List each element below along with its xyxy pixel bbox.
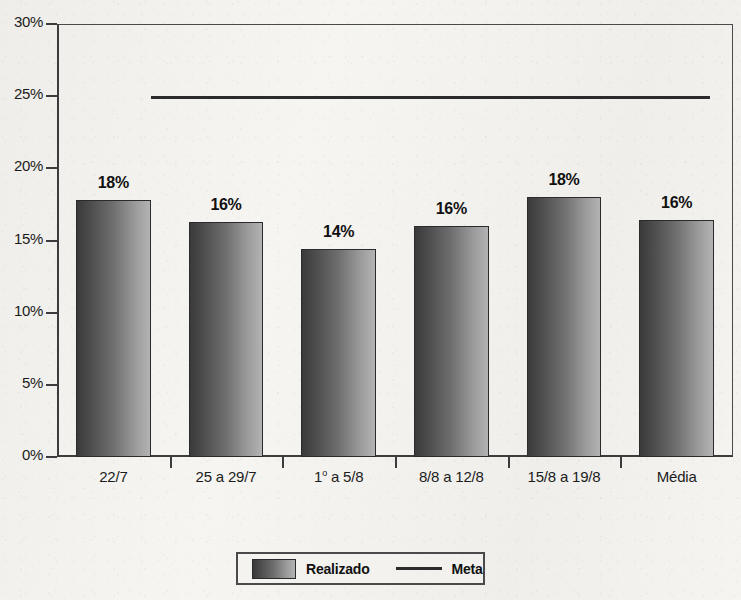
x-tick-mark xyxy=(395,457,397,468)
bar-1º a 5/8 xyxy=(301,249,375,457)
x-axis-label: 25 a 29/7 xyxy=(170,468,283,485)
y-tick-label: 25% xyxy=(14,85,43,102)
bar-value-label: 16% xyxy=(170,196,283,214)
y-tick-label: 0% xyxy=(22,446,43,463)
chart-page: 0%5%10%15%20%25%30% 18%22/716%25 a 29/71… xyxy=(0,0,741,600)
legend-item-realizado: Realizado xyxy=(238,559,370,579)
bar-value-label: 18% xyxy=(57,174,170,192)
y-tick-label: 20% xyxy=(14,157,43,174)
meta-target-line xyxy=(151,96,711,99)
y-tick-mark xyxy=(46,23,57,25)
x-axis-label: 1o a 5/8 xyxy=(282,468,395,485)
chart-legend: Realizado Meta xyxy=(236,552,485,585)
y-tick-mark xyxy=(46,95,57,97)
legend-item-meta: Meta xyxy=(370,561,483,577)
y-tick-label: 30% xyxy=(14,13,43,30)
legend-label-meta: Meta xyxy=(452,561,483,577)
y-tick-label: 15% xyxy=(14,230,43,247)
x-tick-mark xyxy=(620,457,622,468)
bar-8/8 a 12/8 xyxy=(414,226,488,457)
bar-22/7 xyxy=(76,200,150,457)
bar-value-label: 16% xyxy=(395,200,508,218)
y-tick-mark xyxy=(46,312,57,314)
y-tick-mark xyxy=(46,384,57,386)
y-tick-mark xyxy=(46,240,57,242)
x-axis-label: 8/8 a 12/8 xyxy=(395,468,508,485)
plot-area-frame xyxy=(57,24,733,457)
bar-15/8 a 19/8 xyxy=(527,197,601,457)
x-axis-label: 22/7 xyxy=(57,468,170,485)
y-tick-label: 10% xyxy=(14,302,43,319)
y-tick-mark xyxy=(46,456,57,458)
legend-label-realizado: Realizado xyxy=(306,561,370,577)
x-axis-label: Média xyxy=(620,468,733,485)
x-tick-mark xyxy=(282,457,284,468)
y-tick-mark xyxy=(46,167,57,169)
x-axis-label: 15/8 a 19/8 xyxy=(508,468,621,485)
bar-25 a 29/7 xyxy=(189,222,263,457)
legend-swatch-realizado-icon xyxy=(252,559,296,579)
bar-value-label: 16% xyxy=(620,194,733,212)
legend-line-meta-icon xyxy=(396,567,442,570)
bar-value-label: 18% xyxy=(508,171,621,189)
bar-Média xyxy=(639,220,713,457)
x-tick-mark xyxy=(170,457,172,468)
y-tick-label: 5% xyxy=(22,374,43,391)
bar-value-label: 14% xyxy=(282,223,395,241)
x-tick-mark xyxy=(508,457,510,468)
